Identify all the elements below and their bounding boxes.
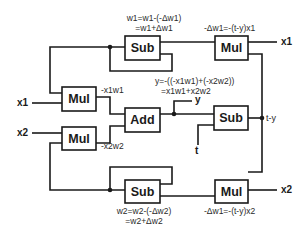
- label-w1-update-1: w1=w1-(-Δw1): [114, 14, 194, 23]
- block-mul-dw1: Mul: [215, 36, 248, 60]
- junction-ty: [260, 116, 265, 121]
- label-w2-update-1: w2=w2-(-Δw2): [104, 207, 184, 216]
- junction-w2: [108, 188, 113, 193]
- block-sub-w1: Sub: [125, 36, 160, 60]
- wire-ty-bus: [248, 54, 262, 172]
- junction-w1: [108, 45, 113, 50]
- input-t: t: [195, 145, 198, 156]
- label-dw2: -Δw1=-(t-y)x2: [204, 207, 255, 216]
- label-y-eq-2: =x1w1+x2w2: [161, 87, 211, 96]
- wire-mul1-to-add: [96, 97, 125, 114]
- junction-y: [172, 112, 177, 117]
- block-mul-dw2: Mul: [215, 180, 248, 203]
- label-neg-x2w2: -x2w2: [101, 142, 124, 151]
- output-x1: x1: [281, 36, 292, 47]
- label-dw1: -Δw1=-(t-y)x1: [204, 24, 255, 33]
- block-sub-ty: Sub: [214, 106, 248, 130]
- block-add: Add: [125, 108, 160, 132]
- input-x1: x1: [17, 97, 28, 108]
- output-x2: x2: [281, 184, 292, 195]
- wire-t-in: [198, 125, 214, 145]
- wire-y-out: [174, 101, 192, 114]
- label-w1-update-2: =w1+Δw1: [114, 24, 194, 33]
- block-mul-x2: Mul: [62, 127, 96, 150]
- label-t-minus-y: t-y: [266, 114, 276, 123]
- label-y-eq-1: y=-((-x1w1)+(-x2w2)): [155, 77, 234, 86]
- label-neg-x1w1: -x1w1: [101, 86, 124, 95]
- block-sub-w2: Sub: [125, 180, 160, 203]
- input-x2: x2: [17, 127, 28, 138]
- block-mul-x1: Mul: [62, 87, 96, 111]
- label-w2-update-2: =w2+Δw2: [104, 217, 184, 226]
